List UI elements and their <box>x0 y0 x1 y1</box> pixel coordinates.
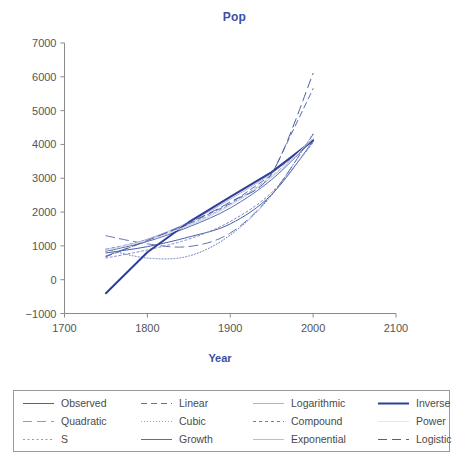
y-tick-label: 0 <box>50 274 56 286</box>
legend-item-label: Logistic <box>416 434 452 445</box>
legend-item-label: Linear <box>179 398 208 409</box>
series-line-observed <box>106 141 313 253</box>
y-tick-label: 1000 <box>32 240 56 252</box>
legend-swatch-icon <box>252 399 285 408</box>
plot-canvas: −100001000200030004000500060007000 17001… <box>0 0 469 380</box>
legend-swatch-icon <box>140 399 173 408</box>
y-tick-label: 3000 <box>32 172 56 184</box>
legend-swatch-icon <box>140 417 173 426</box>
legend-item-label: Exponential <box>291 434 346 445</box>
legend-item-cubic[interactable]: Cubic <box>140 416 252 427</box>
legend-item-label: Inverse <box>416 398 450 409</box>
series-line-compound <box>106 138 313 249</box>
series-line-logarithmic <box>106 140 313 250</box>
series-lines <box>106 73 313 293</box>
legend-item-label: Cubic <box>179 416 206 427</box>
x-tick-label: 2000 <box>301 322 325 334</box>
series-line-inverse <box>106 140 313 293</box>
legend-item-linear[interactable]: Linear <box>140 398 252 409</box>
legend-item-label: S <box>61 434 68 445</box>
legend-item-inverse[interactable]: Inverse <box>377 398 459 409</box>
legend-item-observed[interactable]: Observed <box>22 398 140 409</box>
legend-swatch-icon <box>377 399 410 408</box>
legend-item-logarithmic[interactable]: Logarithmic <box>252 398 377 409</box>
x-tick-label: 1900 <box>218 322 242 334</box>
legend-item-exponential[interactable]: Exponential <box>252 434 377 445</box>
series-line-power <box>106 139 313 251</box>
x-tick-label: 1700 <box>52 322 76 334</box>
legend-item-label: Logarithmic <box>291 398 345 409</box>
legend-item-label: Growth <box>179 434 213 445</box>
legend-swatch-icon <box>377 435 410 444</box>
legend-swatch-icon <box>22 435 55 444</box>
y-tick-label: 5000 <box>32 105 56 117</box>
y-tick-label: 4000 <box>32 138 56 150</box>
curve-estimation-chart: Pop −100001000200030004000500060007000 1… <box>0 0 469 468</box>
legend-item-growth[interactable]: Growth <box>140 434 252 445</box>
x-tick-label: 2100 <box>384 322 408 334</box>
legend-swatch-icon <box>140 435 173 444</box>
legend-swatch-icon <box>252 417 285 426</box>
legend-swatch-icon <box>252 435 285 444</box>
y-axis: −100001000200030004000500060007000 <box>26 37 65 320</box>
legend-item-s[interactable]: S <box>22 434 140 445</box>
legend-item-power[interactable]: Power <box>377 416 459 427</box>
y-tick-label: −1000 <box>26 308 57 320</box>
legend-item-compound[interactable]: Compound <box>252 416 377 427</box>
x-tick-label: 1800 <box>135 322 159 334</box>
legend-swatch-icon <box>22 417 55 426</box>
legend-item-logistic[interactable]: Logistic <box>377 434 459 445</box>
legend-item-label: Compound <box>291 416 342 427</box>
series-line-exponential <box>106 139 313 250</box>
legend-swatch-icon <box>377 417 410 426</box>
y-tick-label: 6000 <box>32 71 56 83</box>
x-axis-title: Year <box>0 352 440 364</box>
x-axis: 17001800190020002100 <box>52 314 408 334</box>
legend-swatch-icon <box>22 399 55 408</box>
series-line-s <box>106 143 313 258</box>
legend-item-label: Quadratic <box>61 416 107 427</box>
series-line-quadratic <box>106 134 313 247</box>
y-tick-label: 2000 <box>32 206 56 218</box>
series-line-growth <box>106 139 313 251</box>
legend-item-quadratic[interactable]: Quadratic <box>22 416 140 427</box>
legend: ObservedLinearLogarithmicInverseQuadrati… <box>13 390 450 452</box>
legend-item-label: Observed <box>61 398 107 409</box>
y-tick-label: 7000 <box>32 37 56 49</box>
legend-item-label: Power <box>416 416 446 427</box>
